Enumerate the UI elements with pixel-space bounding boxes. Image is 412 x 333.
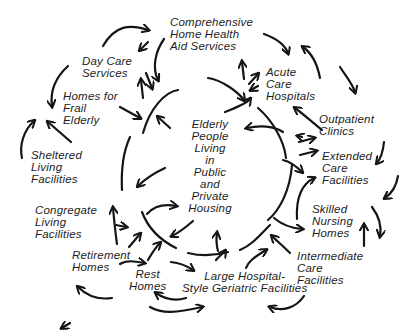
node-large-hospital-style-geriatric-facilities: Large Hospital- Style Geriatric Faciliti…	[182, 270, 307, 294]
node-extended-care-facilities: Extended Care Facilities	[322, 150, 372, 186]
care-continuum-diagram: Comprehensive Home Health Aid Services D…	[0, 0, 412, 333]
node-elderly-people-center: Elderly People Living in Public and Priv…	[180, 118, 240, 214]
node-homes-for-frail-elderly: Homes for Frail Elderly	[63, 90, 118, 126]
node-acute-care-hospitals: Acute Care Hospitals	[266, 66, 315, 102]
node-outpatient-clinics: Outpatient Clinics	[319, 113, 374, 137]
node-rest-homes: Rest Homes	[129, 268, 166, 292]
node-retirement-homes: Retirement Homes	[72, 249, 130, 273]
node-day-care-services: Day Care Services	[82, 55, 132, 79]
node-congregate-living-facilities: Congregate Living Facilities	[35, 204, 97, 240]
node-comprehensive-home-health: Comprehensive Home Health Aid Services	[170, 16, 253, 52]
node-skilled-nursing-homes: Skilled Nursing Homes	[312, 203, 353, 239]
node-sheltered-living-facilities: Sheltered Living Facilities	[31, 149, 82, 185]
